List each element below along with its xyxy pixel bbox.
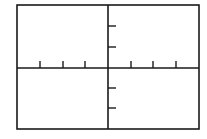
y-axis-ticks: [108, 26, 116, 108]
coordinate-grid: [0, 0, 207, 139]
